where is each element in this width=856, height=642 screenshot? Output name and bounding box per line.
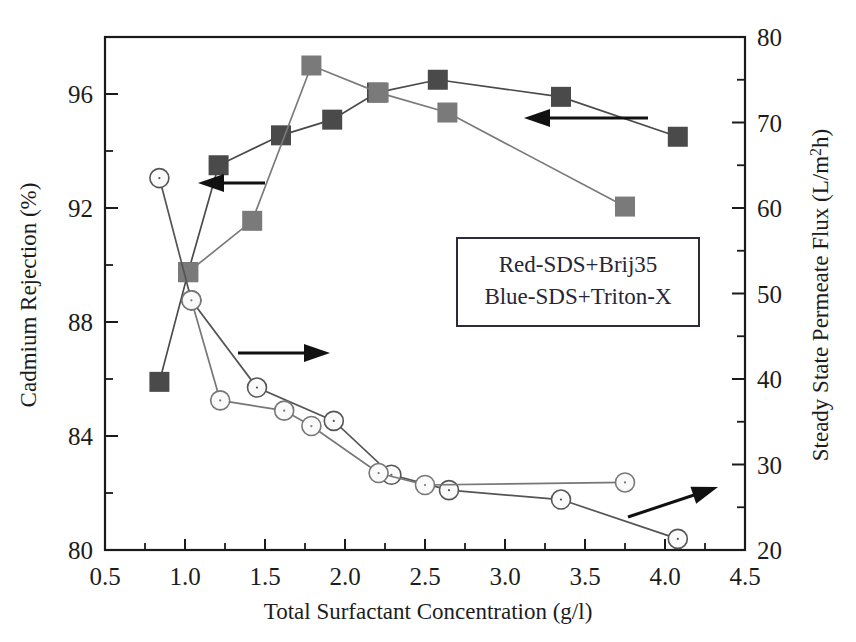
- arrow-head: [304, 344, 330, 362]
- y-axis-left-title: Cadmium Rejection (%): [16, 183, 41, 408]
- data-point-center-dot: [448, 489, 450, 491]
- arrow-right-flux-right: [628, 487, 718, 517]
- data-point-square: [178, 262, 198, 282]
- x-tick-label: 3.5: [569, 563, 600, 590]
- legend-entry-red: Red-SDS+Brij35: [499, 252, 658, 277]
- arrow-right-flux-left: [238, 344, 330, 362]
- x-tick-label: 2.0: [329, 563, 360, 590]
- arrow-left-rejection-lower: [198, 174, 265, 192]
- data-point-center-dot: [283, 410, 285, 412]
- arrow-head: [690, 487, 718, 504]
- data-point-square: [149, 372, 169, 392]
- data-point-square: [322, 110, 342, 130]
- arrow-left-rejection-upper: [524, 109, 648, 127]
- data-point-square: [369, 83, 389, 103]
- x-tick-label: 1.5: [249, 563, 280, 590]
- y-right-tick-label: 50: [757, 281, 782, 308]
- data-point-center-dot: [424, 484, 426, 486]
- data-point-square: [668, 127, 688, 147]
- y-axis-left-ticks: [105, 37, 118, 550]
- arrow-head: [524, 109, 550, 127]
- y-right-tick-label: 70: [757, 110, 782, 137]
- y-right-tick-label: 40: [757, 366, 782, 393]
- data-point-square: [615, 197, 635, 217]
- data-point-center-dot: [378, 472, 380, 474]
- data-point-center-dot: [310, 425, 312, 427]
- y-right-tick-label: 20: [757, 537, 782, 564]
- y-right-tick-label: 80: [757, 24, 782, 51]
- x-tick-label: 3.0: [489, 563, 520, 590]
- y-left-tick-label: 96: [68, 81, 93, 108]
- y-right-tick-label: 60: [757, 195, 782, 222]
- chart-legend: Red-SDS+Brij35 Blue-SDS+Triton-X: [457, 238, 699, 326]
- data-point-center-dot: [256, 386, 258, 388]
- data-point-center-dot: [219, 399, 221, 401]
- data-point-center-dot: [333, 420, 335, 422]
- data-point-square: [437, 103, 457, 123]
- x-axis-tick-labels: 0.51.01.52.02.53.03.54.04.5: [89, 563, 760, 590]
- y-axis-left-tick-labels: 8084889296: [68, 81, 94, 564]
- series-line: [159, 80, 677, 382]
- data-point-square: [551, 87, 571, 107]
- legend-entry-blue: Blue-SDS+Triton-X: [484, 284, 672, 309]
- arrow-shaft: [628, 494, 697, 517]
- y-left-tick-label: 92: [68, 195, 93, 222]
- chart-svg: 0.51.01.52.02.53.03.54.04.5 8084889296 2…: [0, 0, 856, 642]
- data-point-center-dot: [677, 538, 679, 540]
- y-axis-right-ticks: [732, 37, 745, 550]
- data-point-center-dot: [190, 299, 192, 301]
- x-tick-label: 1.0: [169, 563, 200, 590]
- data-point-square: [242, 211, 262, 231]
- y-left-tick-label: 88: [68, 309, 93, 336]
- x-axis-title: Total Surfactant Concentration (g/l): [264, 599, 593, 624]
- x-axis-ticks: [105, 539, 745, 550]
- x-tick-label: 2.5: [409, 563, 440, 590]
- y-left-tick-label: 80: [68, 537, 93, 564]
- y-left-tick-label: 84: [68, 423, 94, 450]
- data-point-center-dot: [624, 481, 626, 483]
- y-right-tick-label: 30: [757, 452, 782, 479]
- data-point-center-dot: [158, 177, 160, 179]
- data-point-center-dot: [560, 498, 562, 500]
- x-tick-label: 0.5: [89, 563, 120, 590]
- x-tick-label: 4.5: [729, 563, 760, 590]
- x-tick-label: 4.0: [649, 563, 680, 590]
- data-point-square: [428, 70, 448, 90]
- y-axis-right-tick-labels: 20304050607080: [757, 24, 782, 564]
- y-axis-right-title: Steady State Permeate Flux (L/m2h): [807, 129, 833, 462]
- data-point-square: [209, 155, 229, 175]
- data-point-square: [301, 56, 321, 76]
- chart-figure: 0.51.01.52.02.53.03.54.04.5 8084889296 2…: [0, 0, 856, 642]
